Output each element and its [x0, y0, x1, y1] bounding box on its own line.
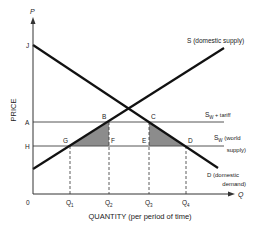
- world-supply-label: SW (world: [214, 134, 241, 143]
- point-label-b: B: [102, 113, 106, 120]
- tariff-line-label: SW + tariff: [205, 111, 231, 120]
- point-label-d: D: [188, 137, 193, 144]
- demand-curve-label: D (domestic: [207, 172, 239, 178]
- quantity-label-q2: Q2: [105, 199, 113, 208]
- world-supply-label-line2: supply): [227, 147, 246, 153]
- y-axis-arrow-icon: [31, 17, 36, 24]
- price-label-j: J: [26, 42, 29, 49]
- x-axis-symbol: Q: [238, 191, 244, 199]
- point-label-g: G: [63, 137, 68, 144]
- y-axis-label: PRICE: [9, 99, 18, 122]
- y-axis-symbol: P: [30, 8, 35, 15]
- demand-curve-label-line2: demand): [222, 181, 246, 187]
- quantity-label-q4: Q4: [182, 199, 190, 208]
- demand-curve: [33, 45, 218, 168]
- quantity-label-q3: Q3: [145, 199, 153, 208]
- point-label-c: C: [151, 113, 156, 120]
- tariff-diagram: P Q PRICE QUANTITY (per period of time) …: [0, 0, 255, 231]
- price-label-h: H: [25, 143, 30, 150]
- x-axis-label: QUANTITY (per period of time): [88, 212, 192, 221]
- price-label-a: A: [25, 119, 30, 126]
- quantity-label-q1: Q1: [66, 199, 74, 208]
- point-label-e: E: [142, 137, 147, 144]
- point-label-f: F: [111, 137, 115, 144]
- supply-curve-label: S (domestic supply): [187, 37, 244, 45]
- x-axis-arrow-icon: [228, 192, 235, 197]
- supply-curve: [33, 48, 224, 169]
- origin-label: 0: [26, 199, 30, 206]
